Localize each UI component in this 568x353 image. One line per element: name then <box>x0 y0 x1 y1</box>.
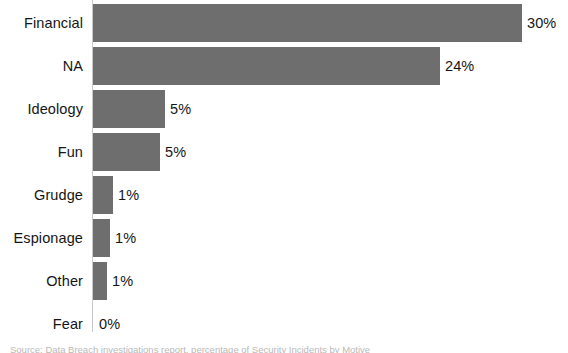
bar-financial <box>93 4 522 42</box>
category-label-espionage: Espionage <box>0 229 83 247</box>
category-label-other: Other <box>0 272 83 290</box>
category-label-na: NA <box>0 57 83 75</box>
bar-group-fear: 0% <box>93 305 120 343</box>
bar-group-ideology: 5% <box>93 90 191 128</box>
value-label-ideology: 5% <box>170 100 191 118</box>
bar-group-grudge: 1% <box>93 176 139 214</box>
table-row: Financial 30% <box>0 4 568 42</box>
value-label-fear: 0% <box>99 315 120 333</box>
bar-group-na: 24% <box>93 47 474 85</box>
value-label-espionage: 1% <box>115 229 136 247</box>
bar-fun <box>93 133 160 171</box>
bar-group-financial: 30% <box>93 4 556 42</box>
value-label-fun: 5% <box>165 143 186 161</box>
bar-grudge <box>93 176 113 214</box>
table-row: NA 24% <box>0 47 568 85</box>
bar-espionage <box>93 219 110 257</box>
table-row: Fun 5% <box>0 133 568 171</box>
value-label-financial: 30% <box>527 14 556 32</box>
table-row: Grudge 1% <box>0 176 568 214</box>
bar-group-fun: 5% <box>93 133 186 171</box>
table-row: Espionage 1% <box>0 219 568 257</box>
category-label-fear: Fear <box>0 315 83 333</box>
category-label-fun: Fun <box>0 143 83 161</box>
table-row: Fear 0% <box>0 305 568 343</box>
bar-other <box>93 262 107 300</box>
chart-caption: Source: Data Breach investigations repor… <box>10 344 558 353</box>
category-label-financial: Financial <box>0 14 83 32</box>
value-label-other: 1% <box>112 272 133 290</box>
value-label-grudge: 1% <box>118 186 139 204</box>
bar-na <box>93 47 440 85</box>
plot-area: Financial 30% NA 24% Ideology 5% Fun <box>0 0 568 332</box>
bar-group-other: 1% <box>93 262 133 300</box>
bar-ideology <box>93 90 165 128</box>
bar-group-espionage: 1% <box>93 219 136 257</box>
category-label-ideology: Ideology <box>0 100 83 118</box>
table-row: Ideology 5% <box>0 90 568 128</box>
category-label-grudge: Grudge <box>0 186 83 204</box>
value-label-na: 24% <box>445 57 474 75</box>
table-row: Other 1% <box>0 262 568 300</box>
